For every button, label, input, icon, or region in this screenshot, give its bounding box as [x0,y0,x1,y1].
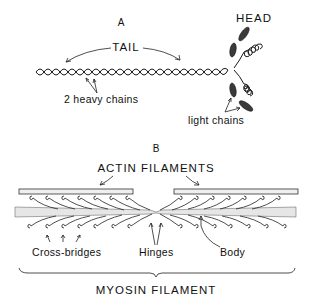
light-chain-blob-2 [229,43,237,58]
panel-a: A TAIL 2 heavy chains HEAD light chains [36,12,272,126]
myosin-diagram: A TAIL 2 heavy chains HEAD light chains [0,0,313,302]
tail-arrow-right [143,48,180,60]
light-chain-blob-1 [237,26,251,43]
hinges-arrow-1 [149,223,155,245]
actin-filament-left [19,189,133,194]
cross-bridges-label: Cross-bridges [32,246,101,258]
hinges-label: Hinges [139,246,173,258]
heavy-chains-label: 2 heavy chains [64,93,138,105]
actin-arrow-left [100,176,113,185]
hinges-arrow-2 [157,223,163,245]
myosin-brace [19,268,295,277]
actin-arrow-right [186,176,199,185]
panel-a-letter: A [118,17,125,28]
tail-arrow-left [66,48,111,62]
tail-label: TAIL [112,41,139,53]
panel-b-letter: B [153,143,160,154]
head-label: HEAD [236,12,272,24]
actin-filament-right [174,189,298,194]
body-label: Body [220,246,246,258]
cross-bridges-arrow-2 [61,235,65,242]
light-chain-blob-3 [229,83,237,98]
light-chain-blob-4 [238,99,255,113]
actin-label: ACTIN FILAMENTS [97,162,214,174]
light-chains-label: light chains [188,114,244,126]
cross-bridges-upper [30,196,281,210]
myosin-head [234,44,262,96]
panel-b: B ACTIN FILAMENTS [15,143,298,296]
body-arrow [199,216,220,247]
myosin-label: MYOSIN FILAMENT [96,284,216,296]
cross-bridges-arrow-1 [46,235,50,242]
heavy-chain-helix [36,68,228,75]
cross-bridges-arrow-3 [76,235,80,242]
light-chains-arrow-1 [225,98,231,112]
